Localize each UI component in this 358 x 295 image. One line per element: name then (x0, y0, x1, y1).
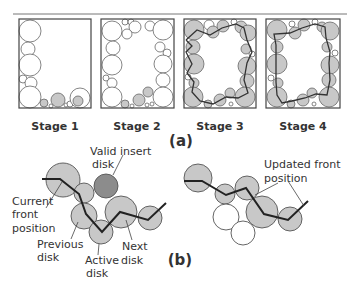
stage-4-label: Stage 4 (279, 120, 327, 133)
updated-front-label-2: position (264, 172, 308, 185)
panel-b-label: (b) (168, 251, 192, 269)
current-front-label-2: front (12, 208, 39, 221)
current-front-label-3: position (12, 222, 56, 235)
previous-disk-label-2: disk (37, 251, 60, 264)
stage-3-label: Stage 3 (196, 120, 243, 133)
stage-3-box (183, 19, 256, 108)
stage-4-box (266, 19, 340, 108)
active-disk-label-2: disk (86, 267, 109, 280)
next-disk-label-2: disk (121, 254, 144, 267)
stage-2-box (101, 19, 174, 108)
active-disk-label-1: Active (85, 254, 119, 267)
current-front-label-1: Current (12, 195, 54, 208)
stage-2-label: Stage 2 (113, 120, 160, 133)
panel-a-label: (a) (169, 132, 193, 150)
disk-packing-figure: Stage 1 Stage 2 (0, 0, 358, 295)
updated-front-label-1: Updated front (264, 158, 341, 171)
valid-insert-label-2: disk (92, 158, 115, 171)
previous-disk-label-1: Previous (37, 238, 84, 251)
valid-insert-label-1: Valid insert (90, 145, 152, 158)
next-disk-label-1: Next (122, 240, 148, 253)
valid-insert-disk (94, 174, 118, 198)
stage-1-label: Stage 1 (31, 120, 78, 133)
stage-1-box (19, 19, 91, 108)
